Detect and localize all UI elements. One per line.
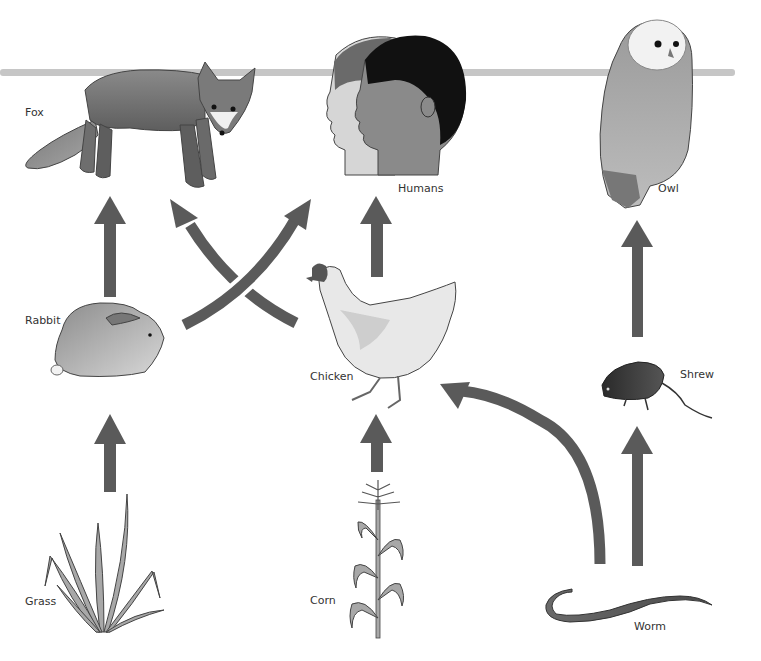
arrow-worm-to-shrew-icon — [621, 426, 653, 566]
grass-label: Grass — [25, 595, 57, 608]
arrows — [94, 196, 653, 566]
diagram-canvas: Fox Humans Owl Rabbit — [0, 0, 761, 661]
worm-label: Worm — [634, 620, 666, 633]
arrow-corn-to-chicken-icon — [360, 414, 392, 472]
rabbit-label: Rabbit — [25, 314, 61, 327]
arrow-chicken-to-humans-icon — [360, 196, 392, 277]
arrow-grass-to-rabbit-icon — [94, 414, 126, 492]
worm-illustration-icon — [546, 589, 712, 622]
humans-illustration-icon — [327, 36, 466, 176]
corn-label: Corn — [310, 594, 336, 607]
shrew-label: Shrew — [680, 368, 714, 381]
rabbit-illustration-icon — [51, 303, 164, 377]
arrow-rabbit-to-fox-icon — [94, 196, 126, 297]
corn-illustration-icon — [350, 480, 404, 638]
owl-illustration-icon — [600, 20, 693, 208]
humans-label: Humans — [398, 182, 444, 195]
food-web-diagram: Fox Humans Owl Rabbit — [0, 0, 761, 661]
owl-label: Owl — [658, 182, 679, 195]
chicken-illustration-icon — [306, 263, 456, 408]
chicken-label: Chicken — [310, 370, 354, 383]
grass-illustration-icon — [45, 494, 164, 632]
arrow-shrew-to-owl-icon — [621, 220, 653, 337]
arrow-worm-to-chicken-icon — [440, 382, 600, 564]
fox-label: Fox — [25, 106, 44, 119]
curved-arrows — [170, 199, 600, 564]
fox-illustration-icon — [26, 62, 255, 187]
